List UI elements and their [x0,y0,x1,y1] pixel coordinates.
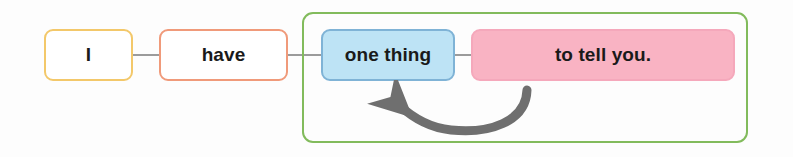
word-box-subject: I [44,29,133,81]
word-box-verb: have [159,29,288,81]
connector-line-subject-verb [131,54,161,56]
word-box-object: one thing [321,29,455,81]
sentence-diagram: I have one thing to tell you. [0,0,793,157]
word-box-infinitive: to tell you. [471,29,735,81]
